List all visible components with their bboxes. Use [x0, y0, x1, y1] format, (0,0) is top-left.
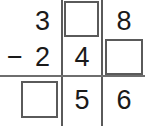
answer-box-top-middle[interactable] [64, 1, 99, 37]
row2-digit-tens: 4 [63, 40, 101, 75]
subtraction-worksheet: 3 8 − 2 4 5 6 [0, 0, 145, 126]
answer-rule [0, 75, 145, 77]
answer-box-bottom-left[interactable] [21, 81, 58, 118]
row3-digit-tens: 5 [63, 80, 101, 120]
row1-digit-ones: 8 [103, 3, 145, 39]
row1-digit-hundreds: 3 [24, 3, 61, 39]
row2-digit-hundreds: 2 [24, 40, 61, 75]
row3-digit-ones: 6 [103, 80, 145, 120]
answer-box-middle-right[interactable] [105, 39, 143, 75]
